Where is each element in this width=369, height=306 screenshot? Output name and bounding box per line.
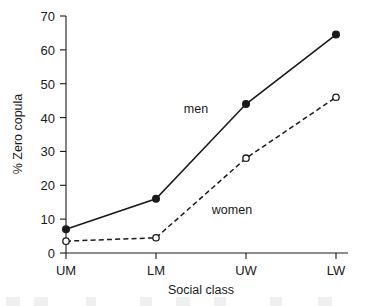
data-point-men-LW: [333, 31, 340, 38]
y-tick-label: 60: [41, 43, 55, 58]
series-annotation-men: men: [184, 102, 208, 116]
data-point-women-UW: [243, 155, 249, 161]
y-tick-label: 40: [41, 111, 55, 126]
x-tick-label: UM: [56, 263, 76, 278]
y-tick-label: 50: [41, 77, 55, 92]
series-markers-women: [63, 94, 339, 244]
y-tick-label: 0: [48, 246, 55, 261]
y-axis-ticks: [60, 16, 66, 253]
series-markers-men: [63, 31, 340, 232]
y-tick-label: 10: [41, 212, 55, 227]
x-axis-title: Social class: [168, 283, 234, 297]
data-point-women-LW: [333, 94, 339, 100]
line-chart: 70 60 50 40 30 20 10 0 % Zero copula UM …: [0, 0, 369, 306]
y-axis-title: % Zero copula: [11, 94, 25, 175]
data-point-women-UM: [63, 238, 69, 244]
chart-figure: 70 60 50 40 30 20 10 0 % Zero copula UM …: [0, 0, 369, 306]
data-point-women-LM: [153, 235, 159, 241]
y-tick-label: 20: [41, 178, 55, 193]
x-tick-label: LM: [147, 263, 165, 278]
y-tick-label: 30: [41, 144, 55, 159]
x-axis-tick-labels: UM LM UW LW: [56, 263, 346, 278]
y-axis-tick-labels: 70 60 50 40 30 20 10 0: [41, 9, 55, 261]
x-axis-ticks: [66, 253, 336, 259]
x-tick-label: UW: [235, 263, 257, 278]
data-point-men-UW: [243, 101, 250, 108]
data-point-men-LM: [153, 195, 160, 202]
y-tick-label: 70: [41, 9, 55, 24]
data-point-men-UM: [63, 226, 70, 233]
series-line-women: [66, 97, 336, 241]
caption-partial-row: [0, 297, 369, 306]
series-line-men: [66, 35, 336, 230]
x-tick-label: LW: [327, 263, 346, 278]
series-annotation-women: women: [211, 203, 252, 217]
